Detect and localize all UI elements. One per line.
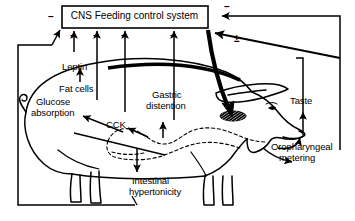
node-label-gastric-distention-line2: distention: [146, 101, 186, 112]
cns-box-label: CNS Feeding control system: [62, 10, 207, 21]
arrow-intestine-to-cck: [128, 128, 148, 137]
pig-haunch-line: [58, 150, 99, 169]
node-label-oropharyngeal-metering-line1: Oropharyngeal: [271, 142, 333, 153]
sign-left-box: –: [48, 12, 54, 22]
node-label-glucose-absorption-line2: absorption: [31, 108, 74, 119]
node-label-intestinal-hypertonicity-line1: Intestinal: [132, 176, 169, 187]
pig-eye: [269, 107, 276, 110]
pig-shoulder-line: [191, 152, 206, 176]
node-label-fat-cells: Fat cells: [59, 84, 93, 95]
node-label-cck: CCK: [106, 120, 126, 131]
node-label-oropharyngeal-metering-line2: metering: [279, 153, 315, 164]
pig-ear-inner-line: [228, 90, 266, 95]
node-label-taste: Taste: [290, 96, 312, 107]
pig-rump-outline: [25, 112, 72, 174]
feeding-control-diagram: CNS Feeding control system Leptin Fat ce…: [0, 0, 355, 221]
sign-plusminus: ±: [234, 34, 240, 44]
pig-foreleg-inner: [222, 176, 233, 205]
node-label-leptin: Leptin: [62, 62, 87, 73]
sign-leptin-arrow: –: [70, 31, 76, 41]
arrow-left-feedback-into-cns: [52, 30, 60, 45]
node-label-gastric-distention-line1: Gastric: [152, 90, 181, 101]
pig-mouth-line: [283, 137, 302, 139]
sign-right-top-box: –: [224, 2, 230, 12]
sign-gastric-arrow: –: [170, 31, 176, 41]
node-label-glucose-absorption-line1: Glucose: [36, 97, 70, 108]
pig-foreleg-outer: [203, 176, 214, 205]
line-gut-to-glucose: [74, 133, 165, 155]
sign-glucose-arrow: –: [121, 31, 127, 41]
pig-hindleg-outer: [70, 174, 81, 202]
node-label-intestinal-hypertonicity-line2: hypertonicity: [129, 187, 181, 198]
sign-fatcells-arrow: –: [93, 31, 99, 41]
